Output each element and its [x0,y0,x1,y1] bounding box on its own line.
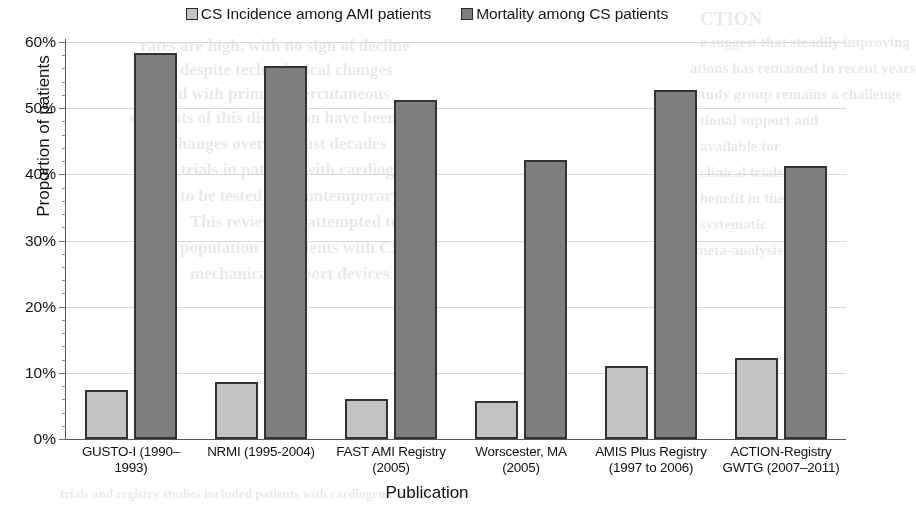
y-axis-minor-tick [62,293,66,294]
bar [475,401,518,439]
bar [264,66,307,439]
y-axis-line [65,39,66,440]
y-axis-tick-label: 30% [0,232,56,250]
x-axis-tick-label: Worscester, MA(2005) [456,444,586,475]
bar [784,166,827,439]
bar [85,390,128,439]
y-axis-minor-tick [62,82,66,83]
bar [524,160,567,439]
legend-swatch-icon-cs-incidence [186,8,198,20]
x-axis-tick-label: GUSTO-I (1990–1993) [66,444,196,475]
x-axis-tick-label: AMIS Plus Registry(1997 to 2006) [586,444,716,475]
legend-item-mortality: Mortality among CS patients [461,5,668,23]
y-axis-minor-tick [62,201,66,202]
gridline [66,174,846,175]
plot-area: 0%10%20%30%40%50%60%GUSTO-I (1990–1993)N… [66,42,846,439]
x-axis-line [65,439,846,440]
y-axis-tick-label: 0% [0,430,56,448]
x-axis-title: Publication [0,483,854,503]
legend-swatch-icon-mortality [461,8,473,20]
bar [215,382,258,439]
y-axis-tick [59,439,66,440]
y-axis-minor-tick [62,320,66,321]
bar [605,366,648,439]
y-axis-tick-label: 50% [0,99,56,117]
y-axis-minor-tick [62,399,66,400]
y-axis-minor-tick [62,386,66,387]
y-axis-tick [59,174,66,175]
x-axis-tick-label: NRMI (1995-2004) [196,444,326,460]
y-axis-minor-tick [62,214,66,215]
gridline [66,373,846,374]
x-axis-tick-label: ACTION-RegistryGWTG (2007–2011) [716,444,846,475]
y-axis-minor-tick [62,413,66,414]
y-axis-tick-label: 60% [0,33,56,51]
y-axis-tick-label: 40% [0,165,56,183]
y-axis-minor-tick [62,360,66,361]
y-axis-tick-label: 20% [0,298,56,316]
gridline [66,241,846,242]
y-axis-minor-tick [62,346,66,347]
y-axis-minor-tick [62,188,66,189]
y-axis-tick [59,241,66,242]
y-axis-minor-tick [62,161,66,162]
y-axis-tick [59,373,66,374]
y-axis-minor-tick [62,280,66,281]
y-axis-minor-tick [62,267,66,268]
y-axis-minor-tick [62,227,66,228]
legend-label-cs-incidence: CS Incidence among AMI patients [201,5,431,23]
y-axis-tick [59,42,66,43]
y-axis-minor-tick [62,95,66,96]
bar [345,399,388,439]
bar [735,358,778,439]
y-axis-tick-label: 10% [0,364,56,382]
legend-label-mortality: Mortality among CS patients [476,5,668,23]
x-axis-tick-label: FAST AMI Registry(2005) [326,444,456,475]
y-axis-minor-tick [62,135,66,136]
gridline [66,307,846,308]
bar [134,53,177,439]
y-axis-minor-tick [62,55,66,56]
y-axis-minor-tick [62,426,66,427]
bar [654,90,697,439]
y-axis-tick [59,108,66,109]
y-axis-minor-tick [62,254,66,255]
y-axis-minor-tick [62,68,66,69]
legend-item-cs-incidence: CS Incidence among AMI patients [186,5,431,23]
bar [394,100,437,439]
gridline [66,42,846,43]
gridline [66,108,846,109]
y-axis-minor-tick [62,148,66,149]
y-axis-tick [59,307,66,308]
y-axis-minor-tick [62,121,66,122]
chart-legend: CS Incidence among AMI patients Mortalit… [0,2,854,26]
y-axis-minor-tick [62,333,66,334]
